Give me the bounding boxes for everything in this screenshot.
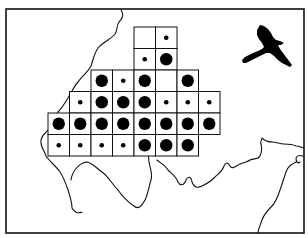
small-dot-marker bbox=[121, 78, 126, 83]
small-dot-marker bbox=[164, 35, 169, 40]
large-dot-marker bbox=[160, 118, 172, 130]
grid-cell bbox=[156, 70, 178, 92]
bird-icon bbox=[242, 25, 292, 67]
small-dot-marker bbox=[56, 143, 61, 148]
large-dot-marker bbox=[182, 75, 194, 87]
coastline-peninsula bbox=[71, 154, 152, 208]
large-dot-marker bbox=[53, 118, 65, 130]
large-dot-marker bbox=[96, 75, 108, 87]
small-dot-marker bbox=[78, 100, 83, 105]
large-dot-marker bbox=[182, 118, 194, 130]
large-dot-marker bbox=[182, 139, 194, 151]
large-dot-marker bbox=[160, 53, 172, 65]
small-dot-marker bbox=[164, 100, 169, 105]
large-dot-marker bbox=[160, 139, 172, 151]
large-dot-marker bbox=[74, 118, 86, 130]
small-dot-marker bbox=[121, 143, 126, 148]
grid-cell bbox=[134, 27, 156, 49]
small-dot-marker bbox=[142, 57, 147, 62]
large-dot-marker bbox=[96, 118, 108, 130]
large-dot-marker bbox=[117, 96, 129, 108]
distribution-map bbox=[0, 0, 308, 238]
coastline-east bbox=[258, 156, 304, 234]
small-dot-marker bbox=[185, 100, 190, 105]
small-dot-marker bbox=[207, 100, 212, 105]
large-dot-marker bbox=[96, 96, 108, 108]
survey-grid bbox=[48, 27, 220, 156]
small-dot-marker bbox=[99, 143, 104, 148]
large-dot-marker bbox=[139, 139, 151, 151]
large-dot-marker bbox=[117, 118, 129, 130]
large-dot-marker bbox=[139, 75, 151, 87]
large-dot-marker bbox=[139, 118, 151, 130]
large-dot-marker bbox=[203, 118, 215, 130]
large-dot-marker bbox=[139, 96, 151, 108]
small-dot-marker bbox=[78, 143, 83, 148]
